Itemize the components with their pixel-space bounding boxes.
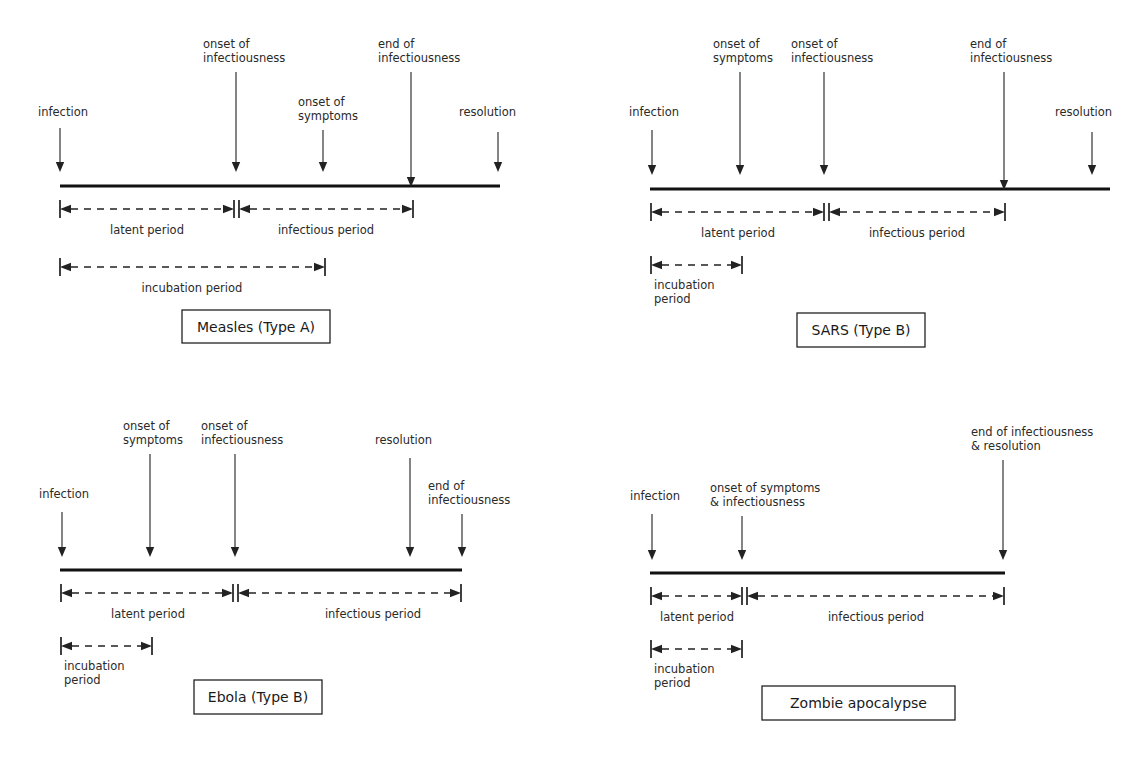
caption-text-measles: Measles (Type A) — [197, 319, 315, 335]
span-bracket-latent-period-measles — [60, 200, 234, 218]
span-incubation-period-measles: incubation period — [60, 258, 325, 295]
span-bracket-infectious-period-sars-right-head — [994, 208, 1005, 216]
event-label-end-of-infectiousness-and-resolution-zombie: end of infectiousness& resolution — [971, 425, 1093, 453]
span-infectious-period-sars: infectious period — [829, 203, 1005, 240]
event-label-infection-measles: infection — [38, 105, 88, 119]
span-bracket-infectious-period-measles-left-head — [239, 205, 250, 213]
event-arrow-infection-sars-head — [648, 165, 656, 175]
event-infection-measles: infection — [38, 105, 88, 172]
event-arrow-onset-of-symptoms-measles-head — [319, 162, 327, 172]
event-onset-of-symptoms-and-infectiousness-zombie: onset of symptoms& infectiousness — [710, 481, 820, 560]
span-incubation-period-ebola: incubationperiod — [61, 637, 152, 687]
event-label-onset-of-infectiousness-measles: onset ofinfectiousness — [203, 37, 285, 65]
panel-ebola: infectiononset ofsymptomsonset ofinfecti… — [39, 419, 510, 714]
span-bracket-incubation-period-zombie-right-head — [731, 645, 742, 653]
span-bracket-infectious-period-zombie-right-head — [993, 592, 1004, 600]
event-onset-of-infectiousness-measles: onset ofinfectiousness — [203, 37, 285, 172]
span-latent-period-sars: latent period — [651, 203, 824, 240]
event-end-of-infectiousness-and-resolution-zombie: end of infectiousness& resolution — [971, 425, 1093, 560]
event-arrow-onset-of-symptoms-and-infectiousness-zombie — [738, 516, 746, 560]
span-bracket-latent-period-zombie-right-head — [731, 592, 742, 600]
span-bracket-incubation-period-sars-right-head — [731, 261, 742, 269]
span-latent-period-zombie: latent period — [651, 587, 742, 624]
event-label-infection-sars: infection — [629, 105, 679, 119]
span-label-latent-period-measles: latent period — [110, 223, 184, 237]
event-resolution-sars: resolution — [1055, 105, 1112, 175]
span-bracket-incubation-period-zombie — [651, 640, 742, 658]
event-arrow-onset-of-symptoms-sars — [736, 72, 744, 175]
span-bracket-infectious-period-measles — [239, 200, 413, 218]
event-arrow-onset-of-symptoms-measles — [319, 130, 327, 172]
event-end-of-infectiousness-sars: end ofinfectiousness — [970, 37, 1052, 190]
span-bracket-incubation-period-ebola-right-head — [141, 642, 152, 650]
span-bracket-infectious-period-measles-right-head — [402, 205, 413, 213]
span-bracket-incubation-period-ebola — [61, 637, 152, 655]
span-label-latent-period-sars: latent period — [701, 226, 775, 240]
event-arrow-infection-measles — [56, 128, 64, 172]
infection-timeline-figure: infectiononset ofinfectiousnessonset ofs… — [0, 0, 1128, 757]
event-label-onset-of-symptoms-measles: onset ofsymptoms — [298, 95, 358, 123]
event-arrow-infection-ebola-head — [58, 547, 66, 557]
span-bracket-latent-period-sars-right-head — [813, 208, 824, 216]
span-label-latent-period-zombie: latent period — [660, 610, 734, 624]
span-bracket-incubation-period-measles-left-head — [60, 263, 71, 271]
event-onset-of-infectiousness-sars: onset ofinfectiousness — [791, 37, 873, 175]
span-bracket-incubation-period-ebola-left-head — [61, 642, 72, 650]
event-resolution-measles: resolution — [459, 105, 516, 172]
event-arrow-onset-of-infectiousness-ebola-head — [231, 547, 239, 557]
caption-measles: Measles (Type A) — [182, 310, 330, 343]
event-arrow-infection-zombie-head — [648, 550, 656, 560]
event-arrow-end-of-infectiousness-measles — [407, 72, 415, 187]
caption-text-sars: SARS (Type B) — [812, 322, 911, 338]
event-arrow-end-of-infectiousness-ebola-head — [458, 547, 466, 557]
caption-zombie: Zombie apocalypse — [762, 686, 955, 720]
event-label-infection-ebola: infection — [39, 487, 89, 501]
event-arrow-resolution-measles — [494, 132, 502, 172]
event-arrow-end-of-infectiousness-and-resolution-zombie-head — [999, 550, 1007, 560]
event-arrow-onset-of-infectiousness-measles — [232, 72, 240, 172]
event-infection-zombie: infection — [630, 489, 680, 560]
span-bracket-latent-period-measles-left-head — [60, 205, 71, 213]
event-onset-of-infectiousness-ebola: onset ofinfectiousness — [201, 419, 283, 557]
figure-canvas: infectiononset ofinfectiousnessonset ofs… — [0, 0, 1128, 757]
event-infection-sars: infection — [629, 105, 679, 175]
event-arrow-resolution-ebola-head — [406, 547, 414, 557]
event-arrow-end-of-infectiousness-and-resolution-zombie — [999, 460, 1007, 560]
event-arrow-onset-of-symptoms-ebola — [146, 454, 154, 557]
event-label-infection-zombie: infection — [630, 489, 680, 503]
event-arrow-resolution-measles-head — [494, 162, 502, 172]
event-arrow-onset-of-infectiousness-sars — [820, 72, 828, 175]
caption-text-ebola: Ebola (Type B) — [208, 689, 308, 705]
event-arrow-infection-zombie — [648, 514, 656, 560]
span-incubation-period-sars: incubationperiod — [651, 256, 742, 306]
span-label-incubation-period-zombie: incubationperiod — [654, 662, 714, 690]
span-bracket-infectious-period-sars — [829, 203, 1005, 221]
span-infectious-period-zombie: infectious period — [747, 587, 1004, 624]
panel-zombie: infectiononset of symptoms& infectiousne… — [630, 425, 1093, 720]
event-onset-of-symptoms-measles: onset ofsymptoms — [298, 95, 358, 172]
event-infection-ebola: infection — [39, 487, 89, 557]
event-label-resolution-ebola: resolution — [375, 433, 432, 447]
panel-sars: infectiononset ofsymptomsonset ofinfecti… — [629, 37, 1112, 347]
span-bracket-incubation-period-measles-right-head — [314, 263, 325, 271]
span-label-infectious-period-sars: infectious period — [869, 226, 965, 240]
span-label-incubation-period-sars: incubationperiod — [654, 278, 714, 306]
span-bracket-infectious-period-ebola-left-head — [238, 589, 249, 597]
span-bracket-infectious-period-zombie-left-head — [747, 592, 758, 600]
event-label-resolution-sars: resolution — [1055, 105, 1112, 119]
event-arrow-infection-ebola — [58, 512, 66, 557]
span-infectious-period-measles: infectious period — [239, 200, 413, 237]
span-bracket-latent-period-zombie — [651, 587, 742, 605]
span-bracket-infectious-period-zombie — [747, 587, 1004, 605]
span-bracket-incubation-period-zombie-left-head — [651, 645, 662, 653]
span-incubation-period-zombie: incubationperiod — [651, 640, 742, 690]
event-label-resolution-measles: resolution — [459, 105, 516, 119]
span-bracket-infectious-period-sars-left-head — [829, 208, 840, 216]
caption-text-zombie: Zombie apocalypse — [790, 695, 927, 711]
event-label-onset-of-symptoms-ebola: onset ofsymptoms — [123, 419, 183, 447]
caption-sars: SARS (Type B) — [797, 313, 925, 347]
event-label-onset-of-symptoms-sars: onset ofsymptoms — [713, 37, 773, 65]
event-end-of-infectiousness-measles: end ofinfectiousness — [378, 37, 460, 187]
event-arrow-onset-of-infectiousness-sars-head — [820, 165, 828, 175]
event-label-end-of-infectiousness-ebola: end ofinfectiousness — [428, 479, 510, 507]
